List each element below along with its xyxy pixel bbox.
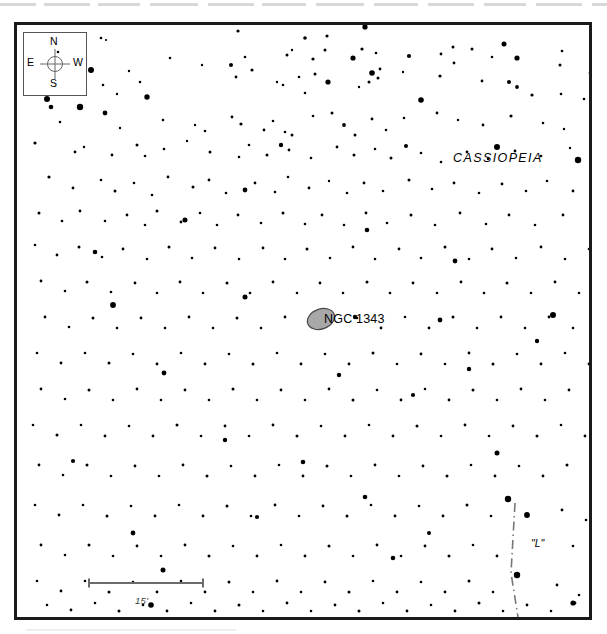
star-marker [502,610,505,613]
star-marker [542,122,545,125]
star-marker [325,79,330,84]
scan-artifact-segment [592,3,607,6]
star-marker [156,292,159,295]
star-marker [204,130,207,133]
star-marker [418,97,424,103]
star-marker [70,609,73,612]
star-marker [238,604,241,607]
star-marker [403,117,406,120]
star-marker [544,399,547,402]
star-marker [350,55,355,60]
star-marker [94,602,97,605]
star-marker [194,124,196,126]
star-marker [200,435,203,438]
star-marker [179,281,182,284]
scan-artifact-segment [150,3,198,6]
star-marker [304,555,307,558]
star-marker [134,282,137,285]
star-marker [116,327,119,330]
star-marker [328,180,330,182]
star-marker [365,228,370,233]
star-marker [60,590,63,593]
star-marker [436,112,439,115]
star-marker [442,515,445,518]
scan-artifact-segment [0,3,36,6]
star-marker [176,424,179,427]
star-marker [564,352,567,355]
star-marker [40,544,43,547]
star-marker [122,248,125,251]
chart-frame: N S E W CASSIOPEIA NGC 1343 "L" 15' [14,22,592,620]
star-marker [428,327,431,330]
star-marker [478,602,481,605]
star-marker [38,212,41,215]
star-marker [243,188,248,193]
star-marker [394,515,397,518]
star-marker [238,258,241,261]
star-marker [284,131,287,134]
star-marker [300,591,303,594]
star-marker [550,610,553,613]
star-marker [556,584,559,587]
star-marker [291,134,294,137]
star-marker [321,214,324,217]
star-marker [64,290,67,293]
star-marker [151,194,154,197]
star-marker [36,352,39,355]
star-marker [487,158,489,160]
star-marker [534,224,537,227]
star-marker [507,80,511,84]
star-marker [274,191,277,194]
star-marker [448,555,451,558]
star-marker [416,425,419,428]
star-marker [550,312,556,318]
star-marker [588,363,589,366]
star-marker [116,93,118,95]
star-marker [476,327,479,330]
star-marker [448,399,451,402]
star-marker [144,94,149,99]
star-marker [348,591,351,594]
star-marker [178,504,181,507]
star-marker [491,56,494,59]
star-marker [136,545,139,548]
star-marker [232,388,235,391]
star-marker [262,247,265,250]
galaxy-marker[interactable] [304,305,337,333]
star-marker [420,257,423,260]
star-marker [570,600,575,605]
star-marker [374,464,377,467]
star-marker [304,399,307,402]
star-marker [266,154,269,157]
star-marker [166,610,169,613]
star-marker [524,327,527,330]
star-marker [100,37,103,40]
star-marker [496,399,499,402]
star-marker [352,246,355,249]
star-marker [372,352,375,355]
star-marker [372,580,375,583]
star-marker [324,49,327,52]
scan-artifact-segment [536,3,582,6]
star-marker [114,190,117,193]
star-marker [110,475,113,478]
star-marker [568,389,571,392]
star-marker [128,425,131,428]
star-marker [368,81,371,84]
star-marker [424,545,427,548]
star-marker [301,460,306,465]
star-marker [254,182,257,185]
star-marker [561,509,564,512]
star-marker [209,151,212,154]
star-marker [162,371,167,376]
scan-artifact-segment [208,3,254,6]
star-marker [108,591,111,594]
star-marker [407,54,411,58]
star-marker [514,572,520,578]
star-marker [452,46,455,49]
star-marker [354,134,357,137]
star-marker [438,318,443,323]
star-marker [34,244,37,247]
star-marker [382,190,385,193]
star-marker [202,515,205,518]
